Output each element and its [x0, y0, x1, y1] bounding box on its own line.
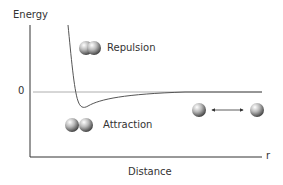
x-axis-label: Distance	[128, 166, 172, 177]
energy-curve	[68, 25, 262, 107]
repulsion-atoms-icon	[79, 41, 101, 55]
repulsion-label: Repulsion	[107, 42, 156, 53]
energy-diagram	[0, 0, 283, 185]
attraction-label: Attraction	[103, 119, 152, 130]
attraction-atoms-icon	[65, 118, 93, 132]
y-axis-label: Energy	[13, 9, 48, 20]
zero-label: 0	[18, 85, 24, 96]
separated-atoms-icon	[192, 103, 264, 117]
x-axis-end-label: r	[266, 150, 270, 161]
